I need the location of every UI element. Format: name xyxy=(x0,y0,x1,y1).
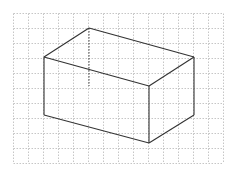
edge-top-left xyxy=(44,28,89,57)
cuboid-diagram xyxy=(0,0,238,169)
edge-bottom-right xyxy=(149,115,194,143)
edge-top-right xyxy=(149,57,194,86)
cuboid xyxy=(44,28,194,143)
